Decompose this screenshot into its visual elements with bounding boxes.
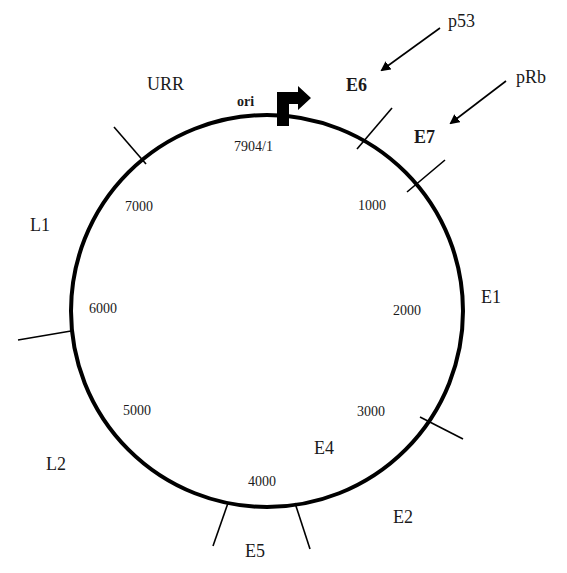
label-e7: E7 (414, 127, 435, 147)
label-urr: URR (147, 74, 184, 94)
marker-7000: 7000 (125, 199, 153, 214)
gene-boundary-ticks (18, 108, 463, 549)
tick-e5-right (295, 503, 310, 549)
label-e4: E4 (314, 438, 334, 458)
label-prb: pRb (516, 67, 546, 87)
label-ori: ori (237, 94, 254, 109)
label-p53: p53 (448, 11, 475, 31)
marker-1000: 1000 (358, 198, 386, 213)
tick-l1-l2 (18, 331, 71, 340)
prb-arrow-icon (451, 81, 506, 123)
label-l2: L2 (46, 454, 66, 474)
marker-5000: 5000 (123, 403, 151, 418)
label-l1: L1 (30, 215, 50, 235)
marker-4000: 4000 (248, 474, 276, 489)
tick-e6 (357, 108, 392, 149)
p53-arrow-icon (382, 28, 440, 70)
marker-3000: 3000 (357, 404, 385, 419)
genome-map: URR ori 7904/1 E6 E7 p53 pRb E1 E4 E2 E5… (0, 0, 567, 573)
tick-e7 (407, 160, 445, 192)
marker-2000: 2000 (393, 303, 421, 318)
label-e6: E6 (346, 75, 367, 95)
marker-6000: 6000 (89, 301, 117, 316)
tick-urr-l1 (114, 127, 146, 164)
label-e2: E2 (393, 507, 413, 527)
label-e1: E1 (481, 287, 501, 307)
label-genome-length: 7904/1 (234, 139, 273, 154)
label-e5: E5 (245, 541, 265, 561)
tick-e5-left (213, 503, 228, 546)
